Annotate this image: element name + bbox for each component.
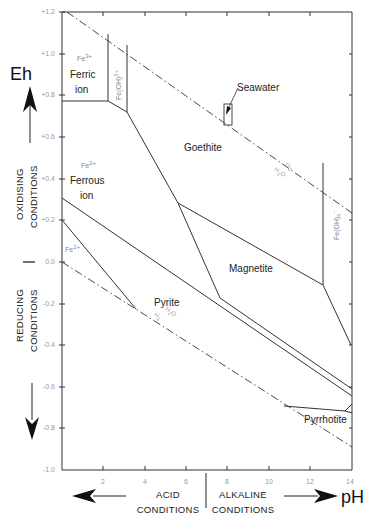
x-tick: 6 [184, 478, 188, 485]
seawater-label: Seawater [237, 82, 280, 93]
fe2-pyrite-boundary [62, 220, 136, 309]
fe2-charge: 2+ [73, 244, 80, 250]
y-tick: -0.2 [43, 300, 55, 307]
feoh4-charge: − [331, 210, 337, 213]
seawater-marker [224, 88, 238, 125]
pyrrhotite-label: Pyrrhotite [304, 414, 347, 425]
reducing-conditions-label: CONDITIONS [28, 289, 39, 352]
oxidising-label: OXIDISING [14, 168, 25, 220]
y-tick: +0.4 [41, 175, 55, 182]
magnetite-label: Magnetite [229, 263, 273, 274]
plot-frame [62, 12, 352, 470]
svg-text:Fe(OH)2+: Fe(OH)2+ [113, 70, 123, 100]
y-tick: 0.0 [45, 258, 55, 265]
svg-text:H2O: H2O [272, 166, 287, 180]
feoh4-label: Fe(OH)4− [331, 210, 342, 240]
ferric-boundary [62, 101, 127, 112]
up-arrow-icon [23, 86, 37, 143]
alkaline-conditions-label: CONDITIONS [212, 504, 275, 515]
ferric-symbol: Fe [77, 55, 85, 62]
ferric-charge: 3+ [85, 53, 92, 59]
oxidising-conditions-text: CONDITIONS [28, 165, 39, 228]
y-tick-labels: +1.2 +1.0 +0.8 +0.6 +0.4 +0.2 0.0 -0.2 -… [41, 8, 55, 473]
x-tick: 12 [306, 478, 314, 485]
water-stability-lines [62, 12, 352, 447]
y-tick: -1.0 [43, 466, 55, 473]
x-tick: 4 [143, 478, 147, 485]
ferrous-charge: 2+ [89, 160, 96, 166]
y-tick: +1.2 [41, 8, 55, 15]
svg-text:Fe2+: Fe2+ [81, 160, 97, 169]
oxidising-conditions-label: CONDITIONS [28, 165, 39, 228]
magnetite-pyrite-boundary [220, 298, 352, 389]
ferrous-label-1: Ferrous [70, 175, 104, 186]
feoh2-charge: 2+ [113, 70, 119, 76]
ferrous-pyrite-boundary [62, 198, 352, 396]
fe2-small-label: Fe2+ [65, 244, 81, 253]
feoh2-label: Fe(OH)2+ [113, 70, 123, 100]
y-tick: -0.6 [43, 383, 55, 390]
y-tick: -0.8 [43, 424, 55, 431]
svg-text:Fe3+: Fe3+ [77, 53, 93, 62]
alkaline-label: ALKALINE [219, 489, 267, 500]
y-tick: +0.2 [41, 216, 55, 223]
eh-ph-diagram: +1.2 +1.0 +0.8 +0.6 +0.4 +0.2 0.0 -0.2 -… [0, 0, 374, 520]
reducing-label: REDUCING [14, 289, 25, 342]
svg-text:Fe(OH)4−: Fe(OH)4− [331, 210, 342, 240]
oxidising-text: OXIDISING [14, 168, 25, 220]
x-tick: 10 [265, 478, 273, 485]
reducing-text: REDUCING [14, 289, 25, 342]
goethite-label: Goethite [184, 142, 222, 153]
down-arrow-icon [25, 383, 39, 440]
phase-boundaries [62, 34, 352, 413]
ferrous-symbol: Fe [81, 162, 89, 169]
feoh2-text: Fe(OH) [115, 77, 123, 100]
ferric-label-2: ion [75, 84, 88, 95]
ferric-ion-label: Fe3+ Ferric ion [70, 53, 96, 95]
feoh4-text: Fe(OH) [333, 217, 341, 240]
y-tick: +1.0 [41, 50, 55, 57]
o2-h2o-line [67, 12, 352, 213]
y-tick: +0.8 [41, 91, 55, 98]
ph-axis-title: pH [341, 487, 364, 507]
y-tick: -0.4 [43, 341, 55, 348]
goethite-ferrous-boundary [127, 112, 220, 298]
acid-conditions-label: CONDITIONS [137, 504, 200, 515]
reducing-conditions-text: CONDITIONS [28, 289, 39, 352]
acid-label: ACID [156, 489, 180, 500]
eh-axis-title: Eh [10, 64, 32, 84]
fe2-symbol: Fe [65, 246, 73, 253]
o2-line-label: O2 H2O [272, 158, 294, 181]
left-arrow-icon [72, 489, 126, 503]
y-tick: +0.6 [41, 133, 55, 140]
x-tick: 2 [101, 478, 105, 485]
ferrous-label-2: ion [80, 190, 93, 201]
x-ticks [103, 12, 310, 470]
x-tick: 8 [225, 478, 229, 485]
x-tick: 14 [346, 478, 354, 485]
x-tick-labels: 2 4 6 8 10 12 14 [101, 478, 354, 485]
right-arrow-icon [284, 489, 338, 503]
magnetite-right-boundary [323, 285, 351, 345]
ferrous-ion-label: Fe2+ Ferrous ion [70, 160, 104, 201]
ferric-label-1: Ferric [70, 69, 96, 80]
